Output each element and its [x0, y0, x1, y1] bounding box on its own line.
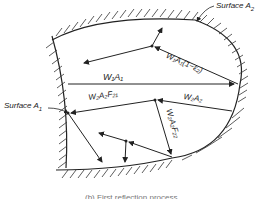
arrow-scatter-up — [152, 28, 162, 46]
reflection-point-top — [151, 45, 154, 48]
surface-a2-curve — [52, 19, 242, 170]
arrow-a2-reflect — [129, 142, 172, 157]
arrow-w2a2f21 — [71, 100, 155, 113]
figure-caption: (b) First reflection process — [85, 193, 177, 199]
label-w1a1: W₁A₁ — [103, 73, 123, 82]
reflection-point-low — [125, 140, 128, 143]
enclosure-diagram — [0, 0, 263, 199]
label-surface-a2: Surface A2 — [216, 2, 254, 12]
reflection-point-mid — [154, 99, 157, 102]
hatching — [46, 9, 248, 178]
arrow-scatter2-left — [99, 133, 126, 141]
arrow-a1-reflect — [68, 113, 102, 162]
label-surface-a1: Surface A1 — [4, 102, 42, 112]
surface-a2-leader — [197, 6, 214, 21]
arrow-scatter-left — [84, 46, 152, 63]
reflection-point-a1 — [67, 112, 70, 115]
arrow-scatter2-down — [125, 141, 126, 162]
